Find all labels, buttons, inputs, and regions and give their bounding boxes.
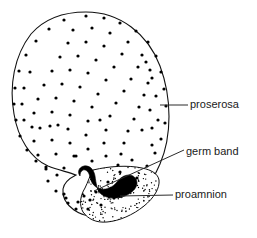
- nucleus-dot: [58, 55, 61, 58]
- stipple-dot: [157, 196, 158, 197]
- stipple-dot: [100, 212, 101, 213]
- stipple-dot: [113, 175, 114, 176]
- stipple-dot: [100, 214, 101, 215]
- nucleus-dot: [122, 141, 125, 144]
- nucleus-dot: [54, 152, 57, 155]
- nucleus-dot: [144, 60, 147, 63]
- stipple-dot: [155, 180, 156, 181]
- stipple-dot: [124, 220, 125, 221]
- stipple-dot: [161, 208, 162, 209]
- stipple-dot: [91, 194, 92, 195]
- stipple-dot: [151, 214, 152, 215]
- nucleus-dot: [66, 41, 69, 44]
- label-germ-band: germ band: [186, 145, 239, 157]
- stipple-dot: [155, 221, 156, 222]
- stipple-dot: [144, 212, 145, 213]
- stipple-dot: [156, 219, 157, 220]
- nucleus-dot: [96, 92, 99, 95]
- stipple-dot: [82, 207, 83, 208]
- nucleus-dot: [132, 117, 135, 120]
- nucleus-dot: [54, 96, 57, 99]
- nucleus-dot: [82, 194, 85, 197]
- nucleus-dot: [62, 18, 65, 21]
- nucleus-dot: [38, 126, 41, 129]
- stipple-dot: [145, 174, 146, 175]
- stipple-dot: [140, 215, 141, 216]
- stipple-dot: [130, 206, 131, 207]
- stipple-dot: [88, 182, 89, 183]
- nucleus-dot: [28, 70, 31, 73]
- stipple-dot: [113, 177, 114, 178]
- stipple-dot: [147, 214, 148, 215]
- nucleus-dot: [86, 71, 89, 74]
- nucleus-dot: [90, 105, 93, 108]
- nucleus-dot: [42, 83, 45, 86]
- stipple-dot: [138, 181, 139, 182]
- nucleus-dot: [17, 69, 20, 72]
- diagram-canvas: proserosa germ band proamnion: [0, 0, 257, 238]
- nucleus-dot: [68, 68, 71, 71]
- nucleus-dot: [146, 81, 149, 84]
- stipple-dot: [110, 168, 111, 169]
- stipple-dot: [140, 217, 141, 218]
- stipple-dot: [104, 199, 105, 200]
- nucleus-dot: [90, 26, 93, 29]
- nucleus-dot: [104, 154, 107, 157]
- nucleus-dot: [84, 40, 87, 43]
- stipple-dot: [156, 215, 157, 216]
- stipple-dot: [88, 180, 89, 181]
- stipple-dot: [162, 222, 163, 223]
- stipple-dot: [127, 167, 128, 168]
- nucleus-dot: [60, 82, 63, 85]
- nucleus-dot: [84, 14, 87, 17]
- nucleus-dot: [34, 39, 37, 42]
- nucleus-dot: [47, 27, 50, 30]
- nucleus-dot: [122, 89, 125, 92]
- stipple-dot: [83, 220, 84, 221]
- stipple-dot: [146, 213, 147, 214]
- nucleus-dot: [74, 207, 77, 210]
- stipple-dot: [82, 216, 83, 217]
- nucleus-dot: [74, 154, 77, 157]
- nucleus-dot: [162, 87, 165, 90]
- stipple-dot: [136, 203, 137, 204]
- stipple-dot: [118, 198, 119, 199]
- stipple-dot: [133, 224, 134, 225]
- stipple-dot: [143, 190, 144, 191]
- nucleus-dot: [108, 31, 111, 34]
- stipple-dot: [93, 212, 94, 213]
- stipple-dot: [102, 211, 103, 212]
- nucleus-dot: [66, 127, 69, 130]
- stipple-dot: [152, 211, 153, 212]
- nucleus-dot: [136, 65, 139, 68]
- stipple-dot: [134, 205, 135, 206]
- stipple-dot: [115, 178, 116, 179]
- stipple-dot: [125, 210, 126, 211]
- nucleus-dot: [48, 124, 51, 127]
- stipple-dot: [111, 207, 112, 208]
- stipple-dot: [96, 202, 97, 203]
- stipple-dot: [159, 206, 160, 207]
- nucleus-dot: [22, 118, 25, 121]
- stipple-dot: [108, 186, 109, 187]
- stipple-dot: [79, 225, 80, 226]
- stipple-dot: [155, 202, 156, 203]
- nucleus-dot: [36, 97, 39, 100]
- stipple-dot: [91, 204, 92, 205]
- nucleus-dot: [56, 123, 59, 126]
- stipple-dot: [148, 193, 149, 194]
- stipple-dot: [162, 181, 163, 182]
- nucleus-dot: [134, 29, 137, 32]
- stipple-dot: [138, 187, 139, 188]
- nucleus-dot: [104, 78, 107, 81]
- stipple-dot: [133, 192, 134, 193]
- stipple-dot: [89, 214, 90, 215]
- stipple-dot: [147, 196, 148, 197]
- stipple-dot: [138, 179, 139, 180]
- nucleus-dot: [76, 54, 79, 57]
- stipple-dot: [150, 212, 151, 213]
- stipple-dot: [145, 222, 146, 223]
- stipple-dot: [119, 174, 120, 175]
- stipple-dot: [143, 178, 144, 179]
- nucleus-dot: [20, 102, 23, 105]
